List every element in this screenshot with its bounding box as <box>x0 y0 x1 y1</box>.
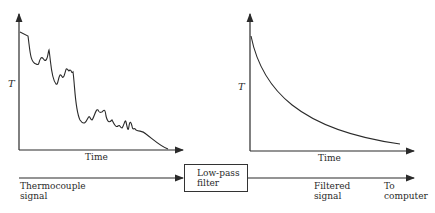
filtered-signal-curve <box>251 36 400 144</box>
input-label-line1: Thermocouple <box>20 181 86 191</box>
output-label-line1: Filtered <box>314 181 350 191</box>
dest-label-line1: To <box>384 181 395 191</box>
low-pass-filter-block: Low-pass filter <box>184 164 248 192</box>
output-label-line2: signal <box>314 191 341 201</box>
left-y-axis-label: T <box>8 78 15 89</box>
left-plot-axes <box>19 14 183 150</box>
right-plot-axes <box>250 14 414 151</box>
block-label-line1: Low-pass <box>197 168 240 178</box>
input-label-line2: signal <box>20 191 47 201</box>
left-x-axis-label: Time <box>85 152 108 162</box>
right-x-axis-label: Time <box>318 153 341 163</box>
dest-label-line2: computer <box>384 191 428 201</box>
noisy-signal-curve <box>20 32 168 149</box>
right-y-axis-label: T <box>238 81 245 92</box>
block-label-line2: filter <box>197 178 219 188</box>
